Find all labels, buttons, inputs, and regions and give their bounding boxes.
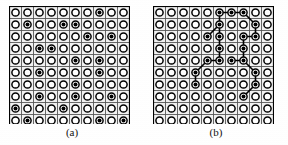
lattice-site-open [108, 45, 115, 52]
lattice-site-open [120, 93, 127, 100]
lattice-site-filled [218, 59, 222, 63]
lattice-site-open [12, 33, 19, 40]
lattice-site-open [48, 21, 55, 28]
lattice-site-open [264, 57, 271, 64]
lattice-site-open [216, 93, 223, 100]
lattice-site-open [60, 93, 67, 100]
lattice-site-open [60, 69, 67, 76]
lattice-site-open [96, 93, 103, 100]
lattice-site-open [84, 45, 91, 52]
lattice-site-filled [74, 23, 78, 27]
lattice-site-open [264, 81, 271, 88]
lattice-site-filled [218, 35, 222, 39]
lattice-site-open [48, 81, 55, 88]
lattice-site-open [264, 117, 271, 124]
lattice-site-open [108, 105, 115, 112]
lattice-site-open [60, 117, 67, 124]
lattice-site-open [264, 21, 271, 28]
lattice-site-open [12, 117, 19, 124]
lattice-site-open [84, 117, 91, 124]
lattice-site-open [228, 69, 235, 76]
lattice-site-open [108, 81, 115, 88]
lattice-site-open [36, 57, 43, 64]
lattice-site-filled [242, 47, 246, 51]
lattice-site-open [168, 69, 175, 76]
lattice-site-open [204, 9, 211, 16]
lattice-site-open [84, 105, 91, 112]
lattice-site-open [168, 93, 175, 100]
lattice-site-open [252, 9, 259, 16]
lattice-site-open [228, 21, 235, 28]
panel-b: (b) [144, 0, 288, 145]
lattice-site-filled [74, 83, 78, 87]
lattice-site-open [24, 9, 31, 16]
lattice-site-open [168, 81, 175, 88]
lattice-site-filled [62, 23, 66, 27]
lattice-site-open [264, 33, 271, 40]
lattice-site-open [156, 105, 163, 112]
lattice-site-open [192, 9, 199, 16]
lattice-site-open [180, 45, 187, 52]
lattice-site-filled [242, 59, 246, 63]
lattice-site-filled [50, 47, 54, 51]
lattice-site-open [48, 33, 55, 40]
lattice-site-open [180, 81, 187, 88]
lattice-site-open [168, 57, 175, 64]
lattice-site-open [12, 93, 19, 100]
lattice-site-open [204, 93, 211, 100]
lattice-site-open [24, 93, 31, 100]
lattice-site-open [204, 21, 211, 28]
lattice-site-open [108, 69, 115, 76]
panel-a-caption: (a) [0, 126, 144, 138]
lattice-site-filled [242, 95, 246, 99]
lattice-site-open [24, 45, 31, 52]
lattice-site-open [24, 105, 31, 112]
lattice-site-open [192, 105, 199, 112]
lattice-site-open [192, 117, 199, 124]
lattice-site-open [48, 105, 55, 112]
lattice-site-filled [254, 83, 258, 87]
lattice-site-open [84, 69, 91, 76]
lattice-site-open [156, 9, 163, 16]
lattice-site-open [48, 117, 55, 124]
lattice-site-open [72, 69, 79, 76]
lattice-site-open [252, 105, 259, 112]
lattice-site-filled [98, 11, 102, 15]
lattice-site-filled [242, 35, 246, 39]
lattice-site-filled [110, 35, 114, 39]
lattice-site-filled [26, 119, 30, 123]
lattice-site-filled [14, 107, 18, 111]
lattice-site-open [48, 57, 55, 64]
lattice-site-open [120, 45, 127, 52]
lattice-site-open [96, 81, 103, 88]
lattice-site-open [240, 81, 247, 88]
lattice-site-open [180, 9, 187, 16]
lattice-site-open [228, 117, 235, 124]
lattice-site-filled [230, 59, 234, 63]
lattice-site-open [228, 105, 235, 112]
lattice-site-open [204, 69, 211, 76]
lattice-site-open [24, 69, 31, 76]
lattice-site-open [36, 105, 43, 112]
lattice-site-open [120, 81, 127, 88]
lattice-site-filled [254, 35, 258, 39]
lattice-site-open [48, 69, 55, 76]
lattice-site-open [228, 45, 235, 52]
lattice-site-open [60, 57, 67, 64]
lattice-site-open [108, 57, 115, 64]
lattice-site-open [84, 81, 91, 88]
lattice-site-filled [206, 59, 210, 63]
lattice-site-open [36, 81, 43, 88]
lattice-site-filled [242, 11, 246, 15]
lattice-site-open [252, 93, 259, 100]
lattice-site-open [60, 33, 67, 40]
lattice-site-open [156, 45, 163, 52]
lattice-site-open [252, 57, 259, 64]
lattice-site-open [192, 21, 199, 28]
lattice-site-open [72, 9, 79, 16]
lattice-site-filled [254, 23, 258, 27]
lattice-site-open [264, 93, 271, 100]
lattice-svg-a [9, 6, 130, 124]
lattice-site-filled [218, 11, 222, 15]
lattice-site-open [48, 9, 55, 16]
